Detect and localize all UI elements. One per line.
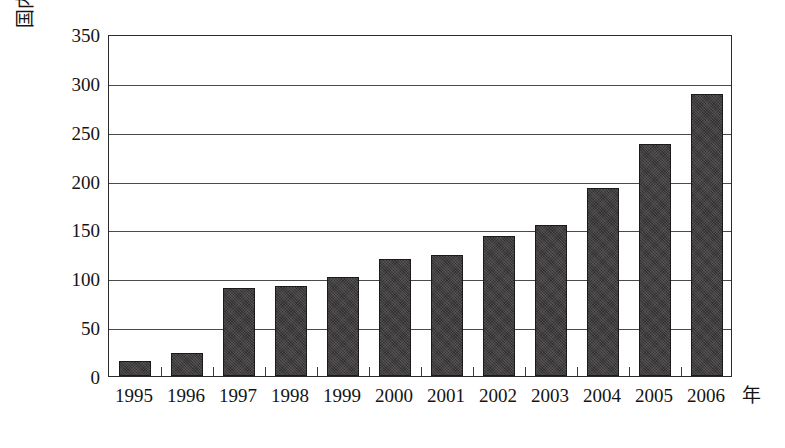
- x-axis-tick-mark: [317, 367, 318, 376]
- y-axis-tick-label: 150: [56, 221, 100, 240]
- x-axis-unit-label: 年: [742, 386, 761, 405]
- x-axis-tick-mark: [369, 367, 370, 376]
- bar: [275, 286, 307, 376]
- x-axis-tick-mark: [265, 367, 266, 376]
- x-axis-tick-label: 2006: [680, 386, 732, 405]
- bar: [691, 94, 723, 376]
- x-axis-tick-label: 1996: [160, 386, 212, 405]
- x-axis-tick-mark: [473, 367, 474, 376]
- bar: [171, 353, 203, 376]
- y-axis-tick-label: 250: [56, 124, 100, 143]
- bar: [431, 255, 463, 376]
- plot-area: [108, 35, 732, 377]
- x-axis-tick-label: 1999: [316, 386, 368, 405]
- x-axis-tick-mark: [213, 367, 214, 376]
- x-axis-tick-label: 1997: [212, 386, 264, 405]
- x-axis-tick-label: 2000: [368, 386, 420, 405]
- y-axis-tick-label: 50: [56, 319, 100, 338]
- x-axis-tick-label: 1995: [108, 386, 160, 405]
- bar: [223, 288, 255, 376]
- y-axis-tick-label: 300: [56, 75, 100, 94]
- bars-layer: [109, 36, 731, 376]
- x-axis-tick-label: 2004: [576, 386, 628, 405]
- x-axis-tick-label: 2002: [472, 386, 524, 405]
- x-axis-tick-mark: [681, 367, 682, 376]
- y-axis-tick-label: 200: [56, 173, 100, 192]
- y-axis-tick-label: 350: [56, 26, 100, 45]
- x-axis-tick-labels: 1995199619971998199920002001200220032004…: [108, 386, 732, 416]
- x-axis-tick-mark: [421, 367, 422, 376]
- bar-chart-figure: 国内旅游收入(亿元) 050100150200250300350 1995199…: [0, 0, 785, 448]
- bar: [119, 361, 151, 376]
- x-axis-tick-label: 2003: [524, 386, 576, 405]
- x-axis-tick-mark: [161, 367, 162, 376]
- x-axis-tick-label: 1998: [264, 386, 316, 405]
- x-axis-tick-mark: [577, 367, 578, 376]
- x-axis-tick-label: 2001: [420, 386, 472, 405]
- bar: [639, 144, 671, 376]
- x-axis-tick-label: 2005: [628, 386, 680, 405]
- bar: [327, 277, 359, 376]
- y-axis-title: 国内旅游收入(亿元): [10, 0, 40, 90]
- y-axis-tick-labels: 050100150200250300350: [52, 0, 100, 448]
- bar: [379, 259, 411, 376]
- x-axis-tick-mark: [525, 367, 526, 376]
- bar: [483, 236, 515, 376]
- y-axis-tick-label: 0: [56, 368, 100, 387]
- y-axis-tick-label: 100: [56, 270, 100, 289]
- x-axis-tick-mark: [629, 367, 630, 376]
- bar: [587, 188, 619, 376]
- bar: [535, 225, 567, 376]
